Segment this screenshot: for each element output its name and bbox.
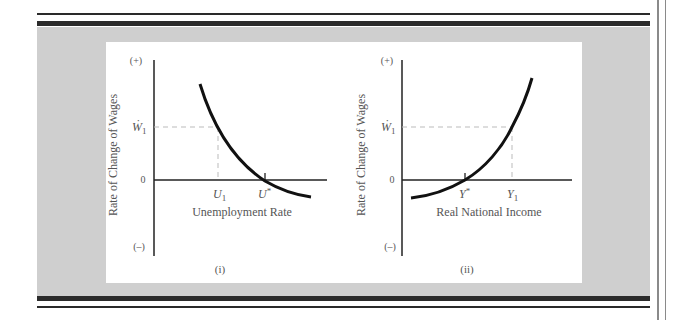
- chart-i-w1-sub: 1: [142, 126, 147, 136]
- chart-ii-y-bottom-label: (–): [384, 241, 396, 253]
- chart-i-y-zero-label: 0: [141, 174, 146, 185]
- chart-ii-x-axis-title: Real National Income: [436, 205, 541, 219]
- chart-i-w1-label: Ẇ1: [132, 119, 147, 136]
- chart-i: (+) (–) 0 Ẇ1 Rate of Change of Wages U1…: [106, 55, 327, 276]
- chart-ii-w1-label: Ẇ1: [381, 119, 396, 136]
- chart-ii-y-axis-title: Rate of Change of Wages: [354, 94, 368, 216]
- chart-i-u1-label: U1: [213, 187, 226, 203]
- chart-ii-y-zero-label: 0: [390, 174, 395, 185]
- chart-i-y-bottom-label: (–): [133, 241, 145, 253]
- chart-ii-y1-label: Y1: [507, 187, 518, 203]
- chart-ii-w1-sub: 1: [391, 126, 396, 136]
- chart-i-y-top-label: (+): [130, 55, 142, 67]
- chart-i-y-axis-title: Rate of Change of Wages: [106, 94, 120, 216]
- figure-svg: (+) (–) 0 Ẇ1 Rate of Change of Wages U1…: [0, 0, 687, 320]
- chart-ii-y1-sub: 1: [514, 193, 519, 203]
- chart-i-x-axis-title: Unemployment Rate: [192, 205, 292, 219]
- chart-i-u1-sub: 1: [222, 193, 227, 203]
- chart-i-ustar-sup: *: [267, 186, 272, 196]
- chart-ii: (+) (–) 0 Ẇ1 Rate of Change of Wages Y*…: [354, 55, 572, 276]
- chart-ii-ystar-sup: *: [466, 186, 471, 196]
- chart-i-ustar-label: U*: [258, 186, 272, 201]
- chart-ii-panel-label: (ii): [460, 263, 474, 276]
- chart-ii-ystar-label: Y*: [459, 186, 471, 201]
- chart-ii-y-top-label: (+): [381, 55, 393, 67]
- chart-i-panel-label: (i): [215, 263, 226, 276]
